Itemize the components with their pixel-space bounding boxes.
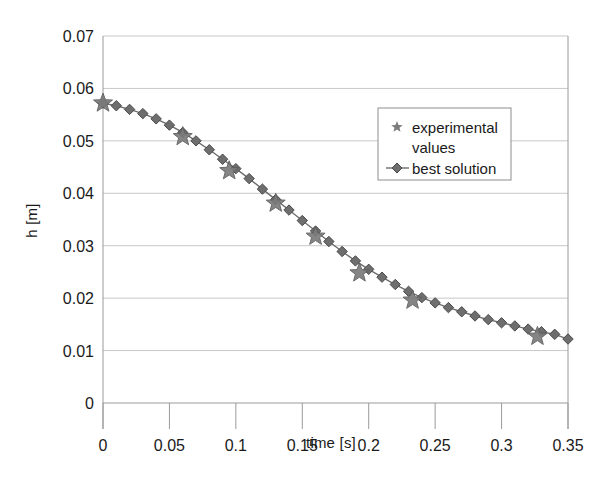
data-point-best-solution xyxy=(430,298,440,308)
data-point-best-solution xyxy=(550,329,560,339)
y-axis-title-text: h [m] xyxy=(23,203,40,237)
y-tick-label: 0.02 xyxy=(63,290,94,307)
legend-label-best-solution: best solution xyxy=(412,160,496,177)
data-point-experimental-value xyxy=(306,226,325,244)
data-point-experimental-value xyxy=(350,263,369,281)
data-point-best-solution xyxy=(563,334,573,344)
data-point-best-solution xyxy=(470,311,480,321)
legend-label-experimental-values-line2: values xyxy=(412,139,455,156)
data-point-best-solution xyxy=(204,145,214,155)
data-point-experimental-value xyxy=(266,193,285,211)
data-point-best-solution xyxy=(377,272,387,282)
data-point-best-solution xyxy=(111,101,121,111)
data-point-best-solution xyxy=(510,321,520,331)
data-point-best-solution xyxy=(390,279,400,289)
y-tick-label: 0.03 xyxy=(63,238,94,255)
y-tick-labels: 00.010.020.030.040.050.060.07 xyxy=(63,28,94,412)
y-tick-label: 0 xyxy=(85,395,94,412)
data-point-best-solution xyxy=(496,318,506,328)
data-point-best-solution xyxy=(483,314,493,324)
x-axis-title-text: time [s] xyxy=(306,434,356,451)
plot-canvas: 00.010.020.030.040.050.060.07 00.050.10.… xyxy=(0,0,614,481)
y-tick-label: 0.04 xyxy=(63,185,94,202)
legend-box: experimentalvaluesbest solution xyxy=(378,108,511,180)
y-tick-label: 0.06 xyxy=(63,80,94,97)
x-axis-title: time [s] xyxy=(0,434,614,451)
y-axis-title: h [m] xyxy=(23,176,40,266)
chart-figure: 00.010.020.030.040.050.060.07 00.050.10.… xyxy=(0,0,614,481)
data-point-best-solution xyxy=(124,104,134,114)
y-tick-label: 0.07 xyxy=(63,28,94,45)
y-tick-label: 0.05 xyxy=(63,133,94,150)
data-point-best-solution xyxy=(217,154,227,164)
y-tick-label: 0.01 xyxy=(63,343,94,360)
legend-label-experimental-values: experimental xyxy=(412,119,498,136)
data-point-best-solution xyxy=(443,302,453,312)
data-point-best-solution xyxy=(457,307,467,317)
data-point-best-solution xyxy=(164,120,174,130)
data-point-best-solution xyxy=(138,108,148,118)
x-tick-marks xyxy=(103,403,568,429)
data-point-best-solution xyxy=(337,246,347,256)
data-point-best-solution xyxy=(151,114,161,124)
axis-lines xyxy=(103,36,568,429)
data-point-best-solution xyxy=(191,136,201,146)
grid-lines xyxy=(103,36,568,351)
